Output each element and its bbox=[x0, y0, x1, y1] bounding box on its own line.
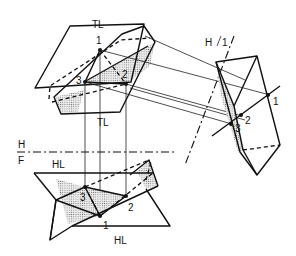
top-label-1: 1 bbox=[96, 35, 102, 46]
front-point-1 bbox=[98, 214, 102, 218]
front-point-2 bbox=[124, 194, 128, 198]
top-label-2: 2 bbox=[122, 69, 128, 80]
front-label-hl-top: HL bbox=[52, 159, 65, 170]
front-left-edge bbox=[34, 173, 56, 200]
aux-label-1: 1 bbox=[273, 96, 279, 107]
fold-h1-slash bbox=[217, 36, 221, 46]
front-label-2: 2 bbox=[128, 202, 134, 213]
diagram-svg: 1 2 3 TL TL H F H 1 bbox=[0, 0, 296, 256]
front-label-1: 1 bbox=[103, 220, 109, 231]
aux-edge-b bbox=[234, 56, 257, 106]
projector-4 bbox=[145, 36, 245, 80]
fold-h1-label-1: 1 bbox=[222, 37, 228, 48]
front-point-3 bbox=[83, 185, 87, 189]
aux-hidden-edge bbox=[243, 145, 280, 150]
aux-point-1 bbox=[266, 93, 270, 97]
top-view: 1 2 3 TL bbox=[35, 19, 155, 114]
front-label-hl-bottom: HL bbox=[114, 235, 127, 246]
aux-label-2: 2 bbox=[245, 115, 251, 126]
diagram-canvas: 1 2 3 TL TL H F H 1 bbox=[0, 0, 296, 256]
fold-hf-label-f: F bbox=[18, 155, 24, 166]
front-apex-edge bbox=[50, 200, 56, 240]
auxiliary-view: 1 2 3 bbox=[212, 56, 280, 175]
front-view: 1 2 3 HL HL bbox=[34, 159, 170, 246]
top-label-3: 3 bbox=[76, 75, 82, 86]
aux-point-2 bbox=[239, 113, 243, 117]
aux-edge-d bbox=[243, 150, 257, 175]
fold-h1-label-h: H bbox=[205, 37, 212, 48]
aux-point-3 bbox=[229, 122, 233, 126]
fold-hf-label-h: H bbox=[18, 139, 25, 150]
front-label-3: 3 bbox=[80, 192, 86, 203]
mid-label-tl: TL bbox=[97, 117, 109, 128]
aux-label-3: 3 bbox=[235, 123, 241, 134]
top-label-tl: TL bbox=[92, 19, 104, 30]
